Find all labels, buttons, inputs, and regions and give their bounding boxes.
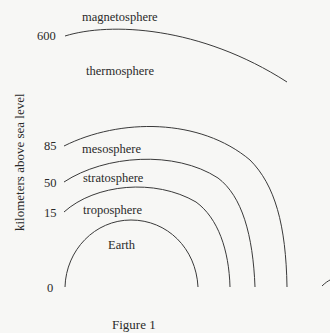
tick-0: 0	[47, 282, 53, 295]
figure-caption: Figure 1	[112, 318, 156, 331]
y-axis-label: kilometers above sea level	[12, 93, 28, 231]
atmosphere-diagram: 600 85 50 15 0 kilometers above sea leve…	[0, 0, 330, 333]
tick-600: 600	[37, 30, 56, 43]
label-stratosphere: stratosphere	[83, 172, 143, 185]
tick-85: 85	[44, 140, 57, 153]
label-thermosphere: thermosphere	[86, 65, 154, 78]
label-magnetosphere: magnetosphere	[82, 11, 158, 24]
label-earth: Earth	[108, 239, 135, 252]
partial-arc	[322, 280, 330, 286]
label-troposphere: troposphere	[83, 204, 142, 217]
tick-15: 15	[44, 207, 57, 220]
tick-50: 50	[44, 177, 57, 190]
label-mesosphere: mesosphere	[82, 143, 141, 156]
earth-surface	[65, 220, 198, 287]
